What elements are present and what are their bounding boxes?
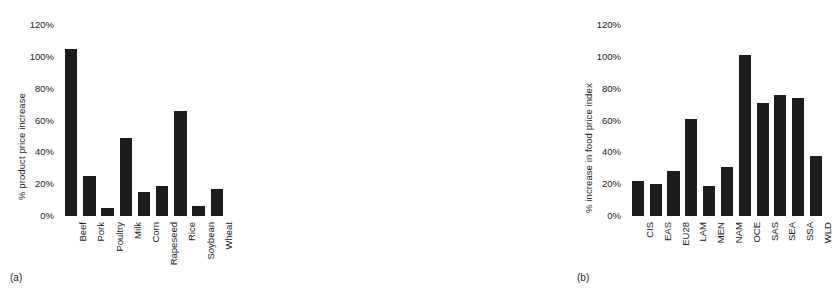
bar-oce [739,55,751,216]
bar-column [171,25,189,216]
panel-a-y-tick-label: 80% [35,84,54,94]
panel-b-y-axis-ticks: 120%100%80%60%40%20%0% [567,25,625,216]
x-label-column: MEN [700,220,718,272]
bar-cis [632,181,644,216]
x-label-column: SAS [754,220,772,272]
bar-column [682,25,700,216]
x-label-column: Poultry [98,220,116,272]
bar-pork [83,176,95,216]
x-label-column: LAM [682,220,700,272]
bar-column [62,25,80,216]
panel-b-y-tick-label: 40% [602,148,621,158]
x-label-column: Pork [80,220,98,272]
panel-a-y-tick-label: 120% [30,20,54,30]
bar-column [629,25,647,216]
bar-column [98,25,116,216]
panel-a-caption: (a) [10,272,22,283]
panel-b-x-axis-labels: CISEASEU28LAMMENNAMOCESASSEASSAWLD [629,220,825,272]
x-label-column: Rice [171,220,189,272]
bar-column [117,25,135,216]
panel-a: % product price increase 120%100%80%60%4… [0,0,286,303]
bar-column [700,25,718,216]
bar-column [208,25,226,216]
panel-b-y-tick-label: 0% [607,211,621,221]
bar-eu28 [667,171,679,216]
panel-b-y-tick-label: 60% [602,116,621,126]
bar-corn [138,192,150,216]
panel-b-y-tick-label: 100% [597,52,621,62]
panel-a-bars [62,25,226,216]
panel-a-y-tick-label: 60% [35,116,54,126]
panel-a-y-axis-ticks: 120%100%80%60%40%20%0% [0,25,58,216]
bar-lam [685,119,697,216]
x-label-column: Milk [117,220,135,272]
panel-b-y-tick-label: 120% [597,20,621,30]
panel-b-y-tick-label: 20% [602,179,621,189]
panel-b-caption: (b) [577,272,589,283]
x-tick-label-wheat: Wheat [222,222,233,249]
bar-column [153,25,171,216]
panel-b-baseline [629,215,825,216]
bar-column [190,25,208,216]
bar-column [135,25,153,216]
x-label-column: EAS [647,220,665,272]
bar-eas [650,184,662,216]
panel-a-x-axis-labels: BeefPorkPoultryMilkCornRapeseedRiceSoybe… [62,220,226,272]
panel-a-y-tick-label: 20% [35,179,54,189]
bar-men [703,186,715,216]
bar-column [80,25,98,216]
x-label-column: EU28 [665,220,683,272]
bar-milk [120,138,132,216]
bar-column [665,25,683,216]
x-label-column: Corn [135,220,153,272]
bar-column [807,25,825,216]
x-label-column: SEA [772,220,790,272]
bar-sas [757,103,769,216]
panel-a-y-tick-label: 0% [40,211,54,221]
bar-sea [774,95,786,216]
panel-a-y-tick-label: 40% [35,148,54,158]
panel-a-baseline [62,215,226,216]
bar-column [772,25,790,216]
bar-column [647,25,665,216]
x-label-column: NAM [718,220,736,272]
bar-beef [65,49,77,216]
bar-wheat [211,189,223,216]
x-label-column: Soybean [190,220,208,272]
x-tick-label-wld: WLD [822,222,833,243]
bar-wld [810,156,822,216]
bar-rapeseed [156,186,168,216]
x-label-column: Beef [62,220,80,272]
panel-a-y-tick-label: 100% [30,52,54,62]
panel-b-plot-area [629,25,825,216]
panel-b-bars [629,25,825,216]
bar-column [736,25,754,216]
bar-column [789,25,807,216]
panel-b-y-tick-label: 80% [602,84,621,94]
panel-b: % increase in food price index 120%100%8… [286,0,571,303]
bar-nam [721,167,733,216]
bar-column [754,25,772,216]
bar-ssa [792,98,804,216]
x-label-column: OCE [736,220,754,272]
x-label-column: Rapeseed [153,220,171,272]
bar-column [718,25,736,216]
bar-rice [174,111,186,216]
panel-a-plot-area [62,25,226,216]
x-label-column: WLD [807,220,825,272]
x-label-column: SSA [789,220,807,272]
x-label-column: Wheat [208,220,226,272]
x-label-column: CIS [629,220,647,272]
